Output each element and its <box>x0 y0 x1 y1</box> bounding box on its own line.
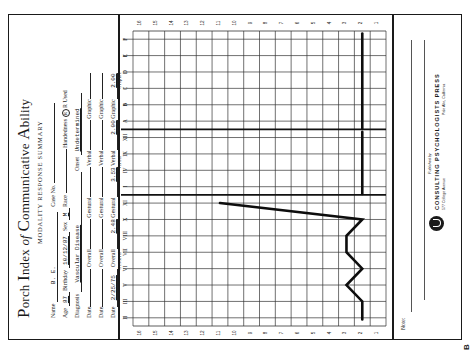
svg-text:Graphic: Graphic <box>117 72 122 89</box>
svg-text:1: 1 <box>374 331 379 334</box>
svg-text:X: X <box>122 217 128 221</box>
svg-text:B: B <box>122 103 128 107</box>
svg-text:3: 3 <box>342 21 347 24</box>
svg-text:IV: IV <box>122 167 128 173</box>
svg-text:D: D <box>122 70 128 74</box>
publisher-logo-icon <box>429 216 444 231</box>
svg-text:14: 14 <box>169 330 174 336</box>
svg-text:VI: VI <box>122 266 128 272</box>
svg-text:11: 11 <box>216 20 221 25</box>
svg-text:16: 16 <box>137 20 142 26</box>
svg-text:6: 6 <box>295 21 300 24</box>
publisher-address: 577 College Avenue <box>442 178 446 210</box>
svg-text:6: 6 <box>295 331 300 334</box>
svg-text:C: C <box>122 86 128 90</box>
svg-text:VIII: VIII <box>122 231 128 241</box>
publisher-name: CONSULTING PSYCHOLOGISTS PRESS <box>434 73 440 210</box>
svg-text:9: 9 <box>248 21 253 24</box>
svg-text:XI: XI <box>122 200 128 206</box>
svg-text:Gestural: Gestural <box>117 251 122 270</box>
svg-text:I: I <box>122 186 128 188</box>
svg-text:II: II <box>122 316 128 320</box>
svg-text:12: 12 <box>200 20 205 26</box>
svg-text:15: 15 <box>153 330 158 336</box>
svg-text:9: 9 <box>248 331 253 334</box>
notes-label: Note: <box>400 318 406 330</box>
svg-text:12: 12 <box>200 330 205 336</box>
published-by: Published by <box>428 153 432 174</box>
svg-text:11: 11 <box>216 330 221 335</box>
svg-text:F: F <box>122 38 128 41</box>
svg-text:10: 10 <box>232 330 237 336</box>
svg-text:III: III <box>122 299 128 305</box>
svg-text:5: 5 <box>311 21 316 24</box>
svg-text:16: 16 <box>137 330 142 336</box>
svg-text:5: 5 <box>311 331 316 334</box>
notes-line-2[interactable] <box>424 40 425 300</box>
svg-text:VII: VII <box>122 248 128 256</box>
svg-text:3: 3 <box>342 331 347 334</box>
notes-line-1[interactable] <box>411 40 412 312</box>
svg-text:8: 8 <box>263 21 268 24</box>
svg-text:V: V <box>122 283 128 287</box>
svg-text:1: 1 <box>374 21 379 24</box>
svg-text:2: 2 <box>358 21 363 24</box>
publisher-city: Palo Alto, California <box>442 84 446 115</box>
modality-profile-chart: IIIIIVVIVIIVIIIXXIIIVIXXIIABCDEFGestural… <box>0 0 472 352</box>
svg-text:4: 4 <box>327 331 332 334</box>
svg-text:2: 2 <box>358 331 363 334</box>
svg-text:13: 13 <box>184 330 189 336</box>
corner-mark: B <box>462 344 471 350</box>
svg-text:15: 15 <box>153 20 158 26</box>
svg-text:14: 14 <box>169 20 174 26</box>
svg-text:XII: XII <box>122 134 128 142</box>
svg-text:13: 13 <box>184 20 189 26</box>
svg-text:7: 7 <box>279 21 284 24</box>
svg-text:Verbal: Verbal <box>117 155 122 169</box>
svg-text:E: E <box>122 53 128 57</box>
svg-text:8: 8 <box>263 331 268 334</box>
svg-text:4: 4 <box>327 21 332 24</box>
svg-text:7: 7 <box>279 331 284 334</box>
svg-text:10: 10 <box>232 20 237 26</box>
svg-text:A: A <box>122 119 128 123</box>
svg-text:IX: IX <box>122 151 128 157</box>
